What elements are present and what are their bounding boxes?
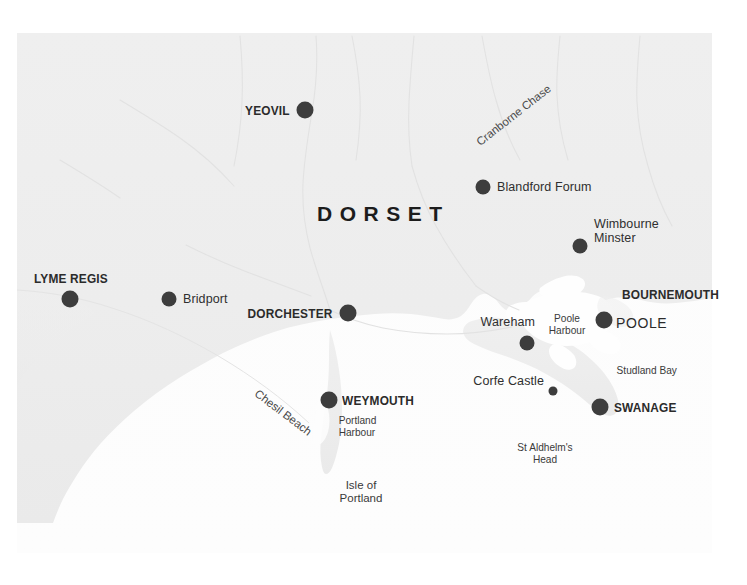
label-bridport: Bridport	[183, 292, 228, 306]
marker-lyme-regis[interactable]	[62, 291, 79, 308]
marker-wimbourne-minster[interactable]	[573, 239, 588, 254]
label-studland-bay: Studland Bay	[617, 364, 677, 376]
marker-corfe-castle[interactable]	[549, 387, 558, 396]
marker-dorchester[interactable]	[340, 305, 357, 322]
marker-weymouth[interactable]	[321, 392, 338, 409]
dorset-map: YEOVIL Blandford Forum Wimbourne Minster…	[0, 0, 747, 585]
label-isle-of-portland: Isle of Portland	[324, 479, 398, 505]
label-weymouth: WEYMOUTH	[342, 393, 414, 408]
label-portland-harbour: Portland Harbour	[339, 414, 377, 439]
label-wareham: Wareham	[481, 315, 535, 329]
marker-swanage[interactable]	[592, 399, 609, 416]
label-poole-harbour: Poole Harbour	[543, 312, 591, 337]
label-wimbourne-minster: Wimbourne Minster	[594, 217, 659, 245]
label-lyme-regis: LYME REGIS	[34, 271, 108, 286]
marker-yeovil[interactable]	[297, 102, 314, 119]
marker-bridport[interactable]	[162, 292, 177, 307]
marker-wareham[interactable]	[520, 336, 535, 351]
label-st-aldhelms-head: St Aldhelm's Head	[515, 441, 576, 466]
label-poole: POOLE	[616, 316, 667, 332]
label-bournemouth: BOURNEMOUTH	[622, 287, 719, 302]
label-blandford-forum: Blandford Forum	[497, 180, 592, 194]
label-swanage: SWANAGE	[614, 400, 677, 415]
label-yeovil: YEOVIL	[245, 103, 290, 118]
label-dorset-county: DORSET	[317, 202, 450, 226]
marker-blandford-forum[interactable]	[476, 180, 491, 195]
label-corfe-castle: Corfe Castle	[473, 374, 544, 388]
marker-poole[interactable]	[596, 312, 613, 329]
label-dorchester: DORCHESTER	[248, 306, 333, 321]
